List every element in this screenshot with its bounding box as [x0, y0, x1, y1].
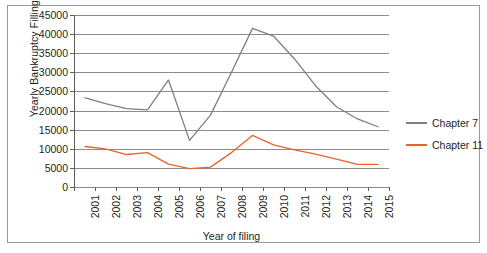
series-line-chapter-11 [85, 135, 379, 168]
x-tick-label: 2011 [299, 195, 311, 218]
x-tick-mark [368, 187, 369, 191]
x-tick-label: 2009 [257, 195, 269, 218]
y-tick-label: 40000 [39, 28, 68, 40]
x-tick-mark [95, 187, 96, 191]
x-tick-label: 2012 [320, 195, 332, 218]
x-tick-mark [284, 187, 285, 191]
x-tick-mark [305, 187, 306, 191]
y-tick-label: 0 [62, 181, 68, 193]
x-tick-label: 2006 [194, 195, 206, 218]
x-tick-label: 2003 [131, 195, 143, 218]
legend-swatch-chapter-7 [406, 122, 427, 124]
legend-label-chapter-11: Chapter 11 [432, 139, 483, 151]
x-tick-label: 2004 [152, 195, 164, 218]
series-lines [74, 15, 389, 187]
y-tick-label: 5000 [45, 162, 68, 174]
x-axis-title: Year of filing [74, 230, 389, 242]
y-tick-label: 10000 [39, 143, 68, 155]
y-tick-label: 25000 [39, 85, 68, 97]
x-tick-mark [137, 187, 138, 191]
y-tick-label: 20000 [39, 105, 68, 117]
gridline [74, 187, 389, 188]
x-tick-mark [74, 187, 75, 191]
plot-area: 0500010000150002000025000300003500040000… [74, 15, 389, 187]
y-tick-label: 30000 [39, 66, 68, 78]
x-tick-label: 2001 [89, 195, 101, 218]
x-tick-mark [221, 187, 222, 191]
x-tick-mark [200, 187, 201, 191]
legend-item-chapter-7: Chapter 7 [406, 112, 482, 134]
x-tick-mark [116, 187, 117, 191]
y-tick-label: 35000 [39, 47, 68, 59]
legend-swatch-chapter-11 [406, 144, 427, 146]
x-tick-label: 2002 [110, 195, 122, 218]
x-tick-mark [179, 187, 180, 191]
chart-container: Yearly Bankruptcy Fillings 0500010000150… [7, 5, 480, 243]
chart-legend: Chapter 7 Chapter 11 [406, 112, 482, 156]
x-tick-mark [263, 187, 264, 191]
x-tick-mark [326, 187, 327, 191]
series-line-chapter-7 [85, 28, 379, 140]
x-tick-label: 2013 [341, 195, 353, 218]
x-tick-label: 2008 [236, 195, 248, 218]
x-tick-label: 2005 [173, 195, 185, 218]
x-tick-label: 2015 [383, 195, 395, 218]
x-tick-mark [389, 187, 390, 191]
x-tick-label: 2007 [215, 195, 227, 218]
x-tick-label: 2010 [278, 195, 290, 218]
x-tick-mark [242, 187, 243, 191]
x-tick-mark [158, 187, 159, 191]
x-tick-mark [347, 187, 348, 191]
y-tick-label: 45000 [39, 9, 68, 21]
legend-item-chapter-11: Chapter 11 [406, 134, 482, 156]
legend-label-chapter-7: Chapter 7 [432, 117, 478, 129]
y-tick-label: 15000 [39, 124, 68, 136]
x-tick-label: 2014 [362, 195, 374, 218]
